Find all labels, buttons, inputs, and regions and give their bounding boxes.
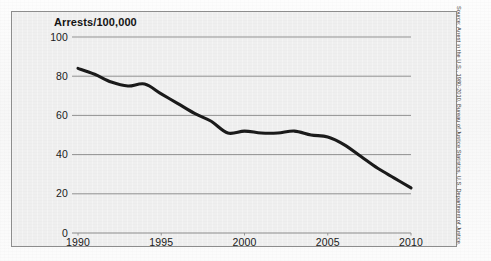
y-tick-60: 60 — [34, 109, 68, 121]
source-note: Source: Arrest in the U.S., 1980-2010, B… — [455, 6, 463, 254]
x-tick-2010: 2010 — [389, 236, 433, 248]
screenshot-root: Arrests/100,000 100806040200 19901995200… — [0, 0, 491, 261]
data-series-line — [78, 68, 411, 188]
x-tick-2005: 2005 — [306, 236, 350, 248]
y-tick-20: 20 — [34, 187, 68, 199]
x-tick-2000: 2000 — [223, 236, 267, 248]
gridlines — [72, 37, 411, 233]
y-tick-40: 40 — [34, 148, 68, 160]
y-tick-100: 100 — [34, 31, 68, 43]
x-tick-1990: 1990 — [56, 236, 100, 248]
line-chart-plot — [0, 0, 491, 261]
x-tick-1995: 1995 — [139, 236, 183, 248]
y-tick-80: 80 — [34, 70, 68, 82]
